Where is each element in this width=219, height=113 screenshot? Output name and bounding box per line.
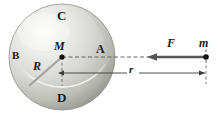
force-vector-arrow <box>147 53 206 61</box>
diagram-canvas <box>0 0 219 113</box>
label-point-d: D <box>57 91 66 104</box>
label-center-m: M <box>54 40 65 52</box>
force-arrow-head <box>147 53 157 61</box>
label-point-b: B <box>12 50 19 61</box>
label-radius-r: R <box>33 60 41 72</box>
label-point-c: C <box>57 9 66 22</box>
center-of-mass-dot <box>59 54 64 59</box>
label-distance-r: r <box>129 64 133 75</box>
gravitation-diagram: C B D A M R F m r <box>0 0 219 113</box>
label-point-mass-m: m <box>199 37 208 49</box>
point-mass-dot <box>203 54 209 60</box>
label-point-a: A <box>96 43 105 55</box>
label-force-f: F <box>167 37 175 49</box>
